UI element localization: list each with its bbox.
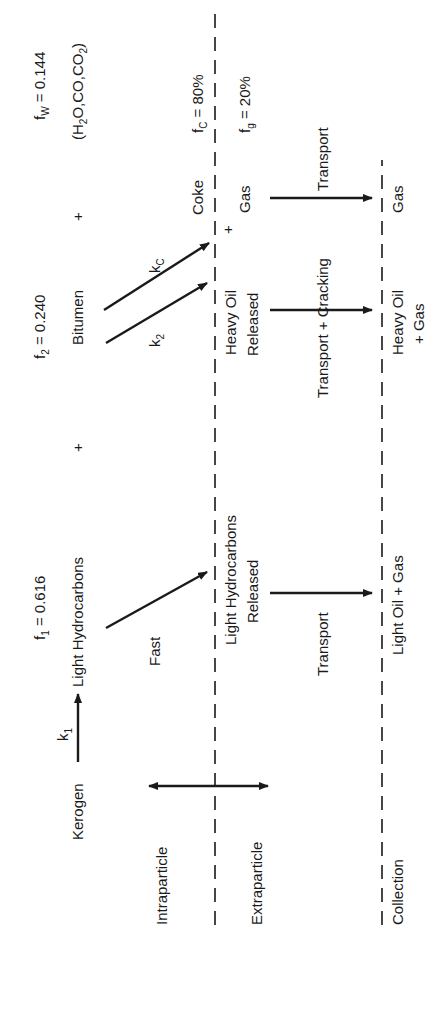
kerogen-label: Kerogen [69, 783, 86, 840]
fraction-fw: fW = 0.144 [31, 52, 51, 120]
pyrolysis-pathway-diagram: f1 = 0.616 f2 = 0.240 fW = 0.144 Kerogen… [0, 0, 431, 1009]
rate-kc: kC [146, 258, 166, 273]
zone-label-collection: Collection [389, 859, 406, 925]
fraction-f1: f1 = 0.616 [31, 576, 51, 640]
fast-arrow [106, 572, 207, 628]
plus-sign: + [69, 443, 86, 452]
zone-label-extraparticle: Extraparticle [248, 842, 265, 925]
light-released-line1: Light Hydrocarbons [222, 515, 239, 645]
heavy-released-line1: Heavy Oil [222, 290, 239, 355]
fraction-fc: fC = 80% [189, 74, 209, 133]
rate-k1: k1 [54, 728, 74, 742]
transport-label-gas: Transport [314, 127, 331, 191]
plus-sign: + [219, 225, 236, 234]
product-light: Light Oil + Gas [389, 555, 406, 655]
coke-label: Coke [189, 180, 206, 215]
fraction-f2: f2 = 0.240 [31, 295, 51, 359]
product-heavy-line1: Heavy Oil [389, 290, 406, 355]
transport-label-light: Transport [314, 612, 331, 676]
heavy-released-line2: Released [244, 293, 261, 356]
light-hydrocarbons-label: Light Hydrocarbons [69, 557, 86, 687]
kc-arrow [104, 243, 209, 310]
bitumen-label: Bitumen [69, 290, 86, 345]
plus-sign: + [69, 212, 86, 221]
zone-label-intraparticle: Intraparticle [153, 847, 170, 925]
fraction-fg: fg = 20% [236, 76, 256, 133]
product-heavy-line2: + Gas [410, 304, 427, 344]
light-released-line2: Released [244, 560, 261, 623]
product-gas: Gas [389, 185, 406, 213]
diagram-canvas: f1 = 0.616 f2 = 0.240 fW = 0.144 Kerogen… [0, 0, 431, 1009]
fast-label: Fast [146, 636, 163, 666]
rate-k2: k2 [146, 334, 166, 348]
gas-released-label: Gas [236, 185, 253, 213]
transport-label-heavy: Transport + Cracking [314, 258, 331, 398]
fw-species-label: (H2O,CO,CO2) [69, 43, 89, 140]
